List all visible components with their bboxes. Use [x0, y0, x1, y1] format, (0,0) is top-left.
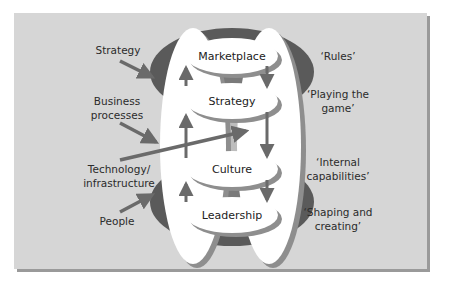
- label-shaping-line1: ‘Shaping and: [303, 206, 372, 218]
- label-strategy: Strategy: [96, 44, 141, 56]
- label-shaping-line2: creating’: [315, 220, 361, 232]
- label-business-processes-line2: processes: [91, 109, 143, 121]
- label-internal-line1: ‘Internal: [316, 156, 360, 168]
- strategy-framework-diagram: Strategy Business processes Technology/ …: [0, 0, 458, 290]
- label-internal-line2: capabilities’: [306, 170, 369, 182]
- label-technology-line1: Technology/: [87, 163, 151, 175]
- disc-label-leadership: Leadership: [202, 209, 262, 222]
- label-rules: ‘Rules’: [320, 50, 355, 62]
- disc-label-culture: Culture: [212, 163, 252, 176]
- label-playing-line1: ‘Playing the: [307, 88, 369, 100]
- disc-label-marketplace: Marketplace: [198, 50, 266, 63]
- label-people: People: [100, 215, 135, 227]
- label-technology-line2: infrastructure: [83, 177, 155, 189]
- disc-label-strategy: Strategy: [208, 95, 256, 108]
- label-playing-line2: game’: [321, 102, 354, 114]
- label-business-processes-line1: Business: [94, 95, 140, 107]
